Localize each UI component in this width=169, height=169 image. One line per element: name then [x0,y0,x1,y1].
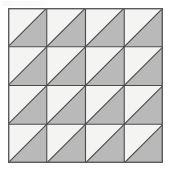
tile [124,124,163,163]
tile [47,8,86,47]
figure-root: Square grid of identical half-shaded squ… [0,0,169,169]
tile [8,86,47,125]
triangle-tiling-figure [8,8,163,163]
tile [8,8,47,47]
tile [124,47,163,86]
tile [86,124,125,163]
tile [86,47,125,86]
tile [124,8,163,47]
tile [8,124,47,163]
tile [47,86,86,125]
tile [47,124,86,163]
tile [47,47,86,86]
scan-artifact-strip [3,1,47,6]
tile [8,47,47,86]
tile [124,86,163,125]
tile [86,86,125,125]
tile [86,8,125,47]
